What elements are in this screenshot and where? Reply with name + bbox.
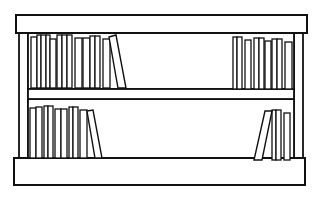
book-icon — [276, 110, 281, 160]
book-icon — [55, 109, 61, 158]
book-icon — [103, 39, 110, 88]
book-icon — [67, 35, 72, 88]
book-icon — [237, 37, 242, 89]
book-icon — [95, 36, 100, 88]
book-icon — [62, 35, 67, 88]
middle-shelf — [28, 89, 294, 99]
book-icon — [254, 38, 259, 89]
book-icon — [57, 35, 62, 88]
book-icon — [277, 39, 282, 89]
bookshelf-illustration — [0, 0, 323, 203]
book-icon — [265, 41, 271, 89]
book-icon — [75, 38, 82, 88]
book-icon — [259, 38, 264, 89]
book-icon — [272, 39, 277, 89]
book-icon — [48, 106, 53, 158]
book-icon — [284, 113, 290, 160]
book-icon — [41, 35, 46, 88]
book-icon — [30, 108, 36, 158]
book-icon — [245, 40, 251, 89]
right-post — [294, 33, 303, 159]
top-board — [16, 15, 307, 33]
book-icon — [83, 38, 90, 88]
book-icon — [50, 39, 56, 88]
book-icon — [80, 110, 87, 158]
lower-compartment — [28, 99, 294, 159]
book-icon — [73, 107, 78, 158]
book-icon — [285, 42, 292, 89]
book-icon — [61, 109, 67, 158]
book-icon — [90, 36, 95, 88]
book-icon — [31, 37, 37, 88]
bookshelf-svg — [0, 0, 323, 203]
base-board — [14, 158, 305, 185]
left-post — [19, 33, 28, 159]
book-icon — [36, 107, 42, 158]
